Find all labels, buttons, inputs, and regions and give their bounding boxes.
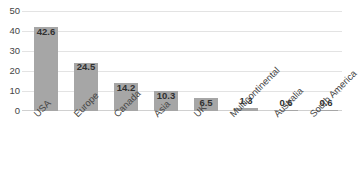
y-tick-label: 20 — [0, 66, 20, 76]
y-tick-label: 0 — [0, 106, 20, 116]
y-tick-label: 10 — [0, 86, 20, 96]
chart-title — [60, 0, 310, 2]
x-axis: USA Europe Canada Asia UK Multicontinent… — [22, 112, 347, 175]
bar-value-label: 24.5 — [70, 62, 102, 72]
y-tick-label: 50 — [0, 6, 20, 16]
y-axis: 50 40 30 20 10 0 — [0, 11, 20, 111]
y-tick-label: 40 — [0, 26, 20, 36]
bar-value-label: 42.6 — [30, 27, 62, 37]
y-tick-label: 30 — [0, 46, 20, 56]
